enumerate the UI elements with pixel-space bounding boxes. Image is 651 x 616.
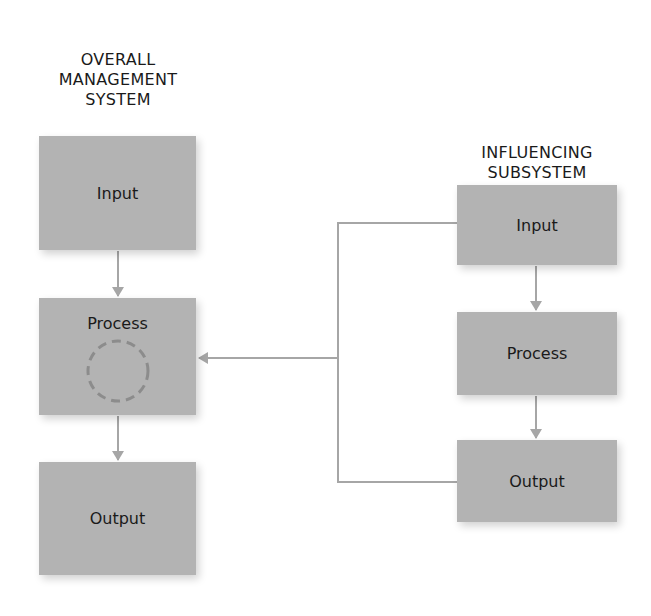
left-process-box: Process (39, 298, 196, 415)
bracket-subsystem-connector (338, 223, 457, 482)
right-output-box: Output (457, 440, 617, 522)
dashed-circle-icon (85, 338, 151, 404)
right-process-label: Process (507, 344, 568, 363)
left-process-label: Process (87, 314, 148, 333)
left-input-box: Input (39, 136, 196, 250)
influencing-subsystem-title: INFLUENCING SUBSYSTEM (437, 143, 637, 183)
right-output-label: Output (509, 472, 565, 491)
left-input-label: Input (97, 184, 138, 203)
left-output-box: Output (39, 462, 196, 575)
right-input-label: Input (516, 216, 557, 235)
right-process-box: Process (457, 312, 617, 395)
right-input-box: Input (457, 185, 617, 265)
left-output-label: Output (90, 509, 146, 528)
overall-management-system-title: OVERALL MANAGEMENT SYSTEM (18, 50, 218, 110)
